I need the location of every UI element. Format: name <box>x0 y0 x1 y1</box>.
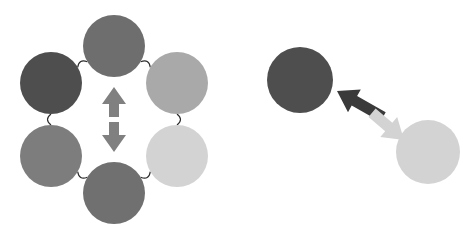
pair-node-light[interactable] <box>396 120 460 184</box>
ring-link-lowerleft-upperleft <box>48 114 52 125</box>
figure-canvas <box>0 0 463 240</box>
ring-node-group <box>20 15 208 224</box>
pair-arrow-light-half <box>369 109 405 140</box>
node-bottom[interactable] <box>83 162 145 224</box>
node-upper-left[interactable] <box>20 52 82 114</box>
pair-double-arrow[interactable] <box>337 90 404 141</box>
pair-node-dark[interactable] <box>267 47 333 113</box>
ring-link-upperleft-top <box>78 61 88 67</box>
figure-root <box>0 0 463 240</box>
node-lower-right[interactable] <box>146 125 208 187</box>
hexagonal-ring-panel <box>20 15 208 224</box>
ring-link-upperright-lowerright <box>177 114 181 125</box>
ring-link-lowerright-bottom <box>141 172 151 178</box>
node-top[interactable] <box>83 15 145 77</box>
pair-node-group <box>267 47 460 184</box>
center-double-arrow[interactable] <box>102 87 126 152</box>
node-lower-left[interactable] <box>20 125 82 187</box>
node-pair-panel <box>267 47 460 184</box>
center-arrow-up-half <box>102 87 126 117</box>
ring-link-bottom-lowerleft <box>78 172 88 178</box>
ring-link-top-upperright <box>141 61 151 67</box>
center-arrow-down-half <box>102 122 126 152</box>
node-upper-right[interactable] <box>146 52 208 114</box>
